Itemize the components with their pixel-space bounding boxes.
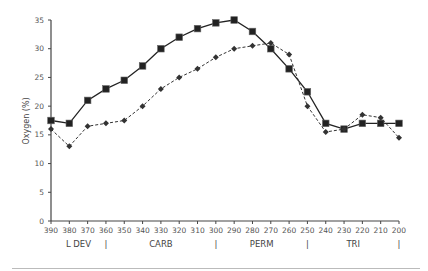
square-marker: [158, 45, 165, 52]
diamond-marker: [213, 54, 219, 60]
y-tick-label: 20: [34, 102, 44, 111]
series-layer: [48, 17, 403, 150]
square-marker: [194, 25, 201, 32]
diamond-marker: [323, 129, 329, 135]
square-marker: [121, 77, 128, 84]
x-tick-label: 360: [99, 226, 114, 235]
diamond-marker: [249, 43, 255, 49]
period-divider: |: [214, 239, 217, 249]
square-marker: [359, 120, 366, 127]
y-axis-title: Oxygen (%): [22, 97, 31, 144]
x-tick-label: 240: [319, 226, 334, 235]
x-tick-label: 220: [355, 226, 370, 235]
x-tick-label: 270: [264, 226, 279, 235]
square-marker: [176, 34, 183, 41]
y-tick-label: 5: [39, 188, 44, 197]
diamond-marker: [195, 66, 201, 72]
period-label: TRI: [345, 239, 360, 249]
x-tick-label: 370: [80, 226, 95, 235]
square-marker: [396, 120, 403, 127]
x-tick-label: 390: [44, 226, 59, 235]
period-labels: L DEVCARBPERMTRI||||: [66, 239, 401, 249]
y-tick-label: 30: [34, 44, 44, 53]
y-tick-label: 25: [34, 73, 44, 82]
x-tick-label: 260: [282, 226, 297, 235]
diamond-marker: [176, 74, 182, 80]
period-label: CARB: [149, 239, 173, 249]
square-marker: [103, 86, 110, 93]
period-label: PERM: [250, 239, 274, 249]
period-divider: |: [398, 239, 401, 249]
square-marker: [84, 97, 91, 104]
y-tick-label: 0: [39, 217, 44, 226]
diamond-marker: [103, 120, 109, 126]
period-divider: |: [306, 239, 309, 249]
square-marker: [249, 28, 256, 35]
x-tick-label: 300: [209, 226, 224, 235]
x-tick-label: 320: [172, 226, 187, 235]
y-tick-label: 35: [34, 16, 44, 25]
oxygen-chart: 05101520253035 3903803703603503403303203…: [0, 0, 428, 271]
y-tick-label: 10: [34, 159, 44, 168]
y-tick-label: 15: [34, 130, 44, 139]
bottom-divider: [12, 268, 420, 269]
square-marker: [48, 117, 55, 124]
x-tick-label: 210: [374, 226, 389, 235]
x-tick-label: 380: [62, 226, 77, 235]
square-marker: [304, 88, 311, 95]
x-tick-label: 310: [190, 226, 205, 235]
diamond-marker: [286, 51, 292, 57]
x-tick-label: 230: [337, 226, 352, 235]
series-1: [48, 17, 403, 133]
x-tick-label: 200: [392, 226, 407, 235]
square-marker: [267, 45, 274, 52]
diamond-marker: [158, 86, 164, 92]
square-marker: [286, 66, 293, 73]
square-marker: [66, 120, 73, 127]
x-axis: 3903803703603503403303203103002902802702…: [44, 221, 407, 235]
square-marker: [213, 20, 220, 27]
period-label: L DEV: [66, 239, 91, 249]
diamond-marker: [231, 46, 237, 52]
series-2: [48, 40, 402, 149]
x-tick-label: 290: [227, 226, 242, 235]
x-tick-label: 330: [154, 226, 169, 235]
x-tick-label: 250: [300, 226, 315, 235]
diamond-marker: [304, 103, 310, 109]
square-marker: [322, 120, 329, 127]
diamond-marker: [85, 123, 91, 129]
period-divider: |: [105, 239, 108, 249]
diamond-marker: [268, 40, 274, 46]
x-tick-label: 280: [245, 226, 260, 235]
x-tick-label: 350: [117, 226, 132, 235]
square-marker: [231, 17, 238, 24]
square-marker: [139, 63, 146, 70]
square-marker: [377, 120, 384, 127]
x-tick-label: 340: [135, 226, 150, 235]
